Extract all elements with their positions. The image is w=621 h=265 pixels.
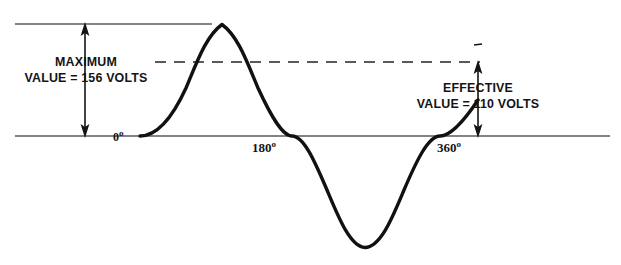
maximum-value-label-line1: MAXIMUM <box>7 54 165 70</box>
axis-tick-label-360deg: 360o <box>437 140 461 156</box>
sine-wave-diagram: MAXIMUM VALUE = 156 VOLTS EFFECTIVE VALU… <box>0 0 621 265</box>
effective-value-label-line1: EFFECTIVE <box>399 80 557 96</box>
axis-tick-label-0deg: 0o <box>113 130 124 145</box>
effective-value-label-line2: VALUE = 110 VOLTS <box>399 96 557 112</box>
maximum-value-label: MAXIMUM VALUE = 156 VOLTS <box>7 54 165 87</box>
effective-value-label: EFFECTIVE VALUE = 110 VOLTS <box>399 80 557 113</box>
degree-symbol-icon: o <box>119 128 124 138</box>
maximum-value-label-line2: VALUE = 156 VOLTS <box>7 70 165 86</box>
axis-tick-label-180deg: 180o <box>252 140 276 156</box>
axis-tick-value-360: 360 <box>437 140 457 155</box>
degree-symbol-icon: o <box>457 139 462 149</box>
effective-arrow-tick-mark <box>474 44 482 45</box>
axis-tick-value-180: 180 <box>252 140 272 155</box>
waveform-canvas <box>0 0 621 265</box>
degree-symbol-icon: o <box>272 139 277 149</box>
